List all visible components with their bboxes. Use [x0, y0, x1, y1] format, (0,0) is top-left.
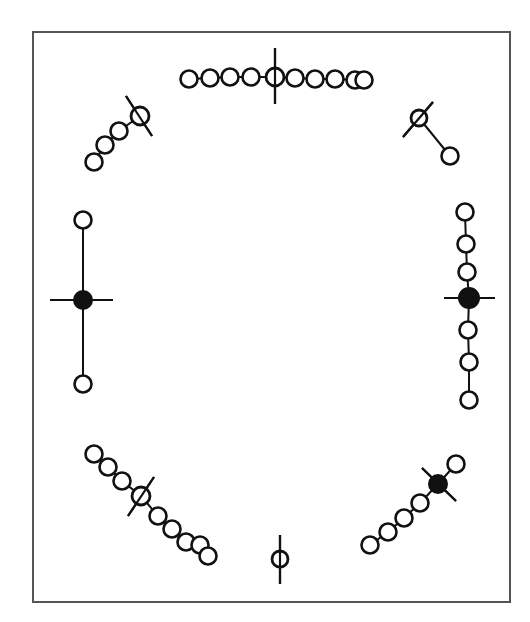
ring-icon — [164, 521, 181, 538]
group-left — [50, 212, 113, 393]
ring-icon — [442, 148, 459, 165]
group-bottom-right — [362, 456, 465, 554]
ring-icon — [461, 392, 478, 409]
ring-icon — [362, 537, 379, 554]
ring-icon — [150, 508, 167, 525]
ring-icon — [458, 236, 475, 253]
ring-icon — [86, 154, 103, 171]
ring-icon — [448, 456, 465, 473]
group-right — [444, 204, 495, 409]
cell-division-diagram — [0, 0, 530, 622]
ring-icon — [327, 71, 344, 88]
ring-icon — [86, 446, 103, 463]
ring-icon — [202, 70, 219, 87]
ring-icon — [307, 71, 324, 88]
spindle-overlay — [403, 102, 433, 137]
group-top-left — [86, 96, 153, 171]
ring-icon — [200, 548, 217, 565]
ring-icon — [114, 473, 131, 490]
ring-icon — [460, 322, 477, 339]
ring-icon — [461, 354, 478, 371]
ring-icon — [243, 69, 260, 86]
ring-icon — [457, 204, 474, 221]
ring-icon — [100, 459, 117, 476]
ring-icon — [111, 123, 128, 140]
group-top — [181, 48, 373, 104]
group-bottom — [272, 535, 288, 584]
group-bottom-left — [86, 446, 217, 565]
chromosome-groups — [50, 48, 495, 584]
ring-icon — [356, 72, 373, 89]
figure-frame — [33, 32, 510, 602]
ring-icon — [459, 264, 476, 281]
ring-icon — [75, 212, 92, 229]
ring-icon — [181, 71, 198, 88]
ring-icon — [75, 376, 92, 393]
ring-icon — [396, 510, 413, 527]
group-top-right — [403, 102, 459, 165]
ring-icon — [97, 137, 114, 154]
ring-icon — [287, 70, 304, 87]
ring-icon — [412, 495, 429, 512]
ring-icon — [222, 69, 239, 86]
ring-icon — [380, 524, 397, 541]
